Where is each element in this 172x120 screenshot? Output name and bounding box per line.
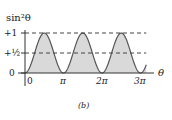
sin-squared-chart: sin²θ θ +1 +½ 0 0 π 2π 3π (b)	[0, 0, 172, 120]
x-tick-label-3pi: 3π	[134, 76, 147, 86]
y-tick-label-half: +½	[4, 48, 21, 58]
x-axis-label: θ	[158, 67, 164, 78]
y-tick-label-1: +1	[4, 28, 17, 38]
caption: (b)	[78, 101, 89, 110]
y-tick-label-0: 0	[9, 68, 15, 78]
x-tick-label-pi: π	[59, 76, 67, 86]
x-tick-label-2pi: 2π	[95, 76, 109, 86]
y-axis-label: sin²θ	[6, 12, 31, 23]
x-tick-label-0: 0	[27, 76, 33, 86]
curve-area	[25, 33, 146, 73]
